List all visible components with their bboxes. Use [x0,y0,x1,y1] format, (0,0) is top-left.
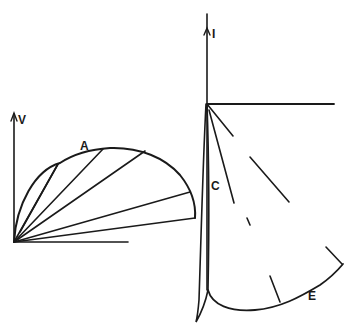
curve-e-label: E [308,290,316,302]
radial-3 [250,157,289,202]
radial-4 [326,247,342,264]
i-axis-label: I [212,28,215,40]
diagram-canvas [0,0,357,333]
right-panel [196,14,343,322]
chord-5 [14,218,195,242]
radial-5 [270,276,280,302]
left-panel [11,113,195,242]
v-axis-label: V [18,114,26,126]
curve-a-label: A [80,140,89,152]
radial-2b [247,218,250,225]
chord-4 [14,192,190,242]
chord-3 [14,151,145,242]
curve-e [208,264,343,310]
curve-c-label: C [211,180,220,192]
